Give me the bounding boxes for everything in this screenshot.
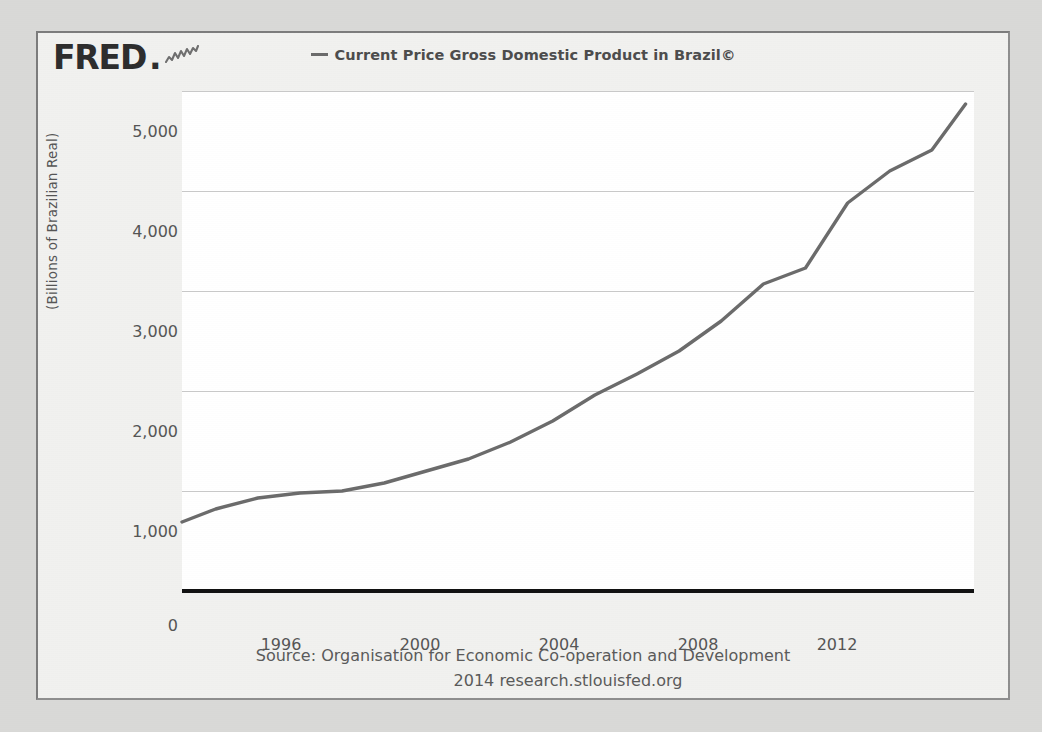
- fred-chart-card: FRED . Current Price Gross Domestic Prod…: [36, 31, 1010, 700]
- fred-url-text[interactable]: 2014 research.stlouisfed.org: [38, 671, 1008, 690]
- y-tick-1000: 1,000: [78, 524, 178, 540]
- plot-wrapper: (Billions of Brazilian Real) 5,000 4,000…: [38, 85, 1012, 645]
- screenshot-root: FRED . Current Price Gross Domestic Prod…: [0, 0, 1042, 732]
- legend-line-swatch: [311, 53, 328, 56]
- chart-header: FRED . Current Price Gross Domestic Prod…: [38, 33, 1008, 85]
- y-tick-2000: 2,000: [78, 424, 178, 440]
- x-axis-baseline: [182, 589, 974, 593]
- y-tick-5000: 5,000: [78, 124, 178, 140]
- source-text: Source: Organisation for Economic Co-ope…: [38, 646, 1008, 665]
- series-legend: Current Price Gross Domestic Product in …: [38, 47, 1008, 63]
- y-tick-0: 0: [78, 618, 178, 634]
- y-axis-tick-labels: 5,000 4,000 3,000 2,000 1,000 0: [68, 85, 178, 645]
- series-line-gdp-brazil: [182, 91, 974, 591]
- chart-footer: Source: Organisation for Economic Co-ope…: [38, 646, 1008, 690]
- y-tick-3000: 3,000: [78, 324, 178, 340]
- y-axis-title: (Billions of Brazilian Real): [44, 286, 60, 310]
- y-tick-4000: 4,000: [78, 224, 178, 240]
- plot-area: [182, 91, 974, 591]
- legend-label: Current Price Gross Domestic Product in …: [335, 47, 736, 63]
